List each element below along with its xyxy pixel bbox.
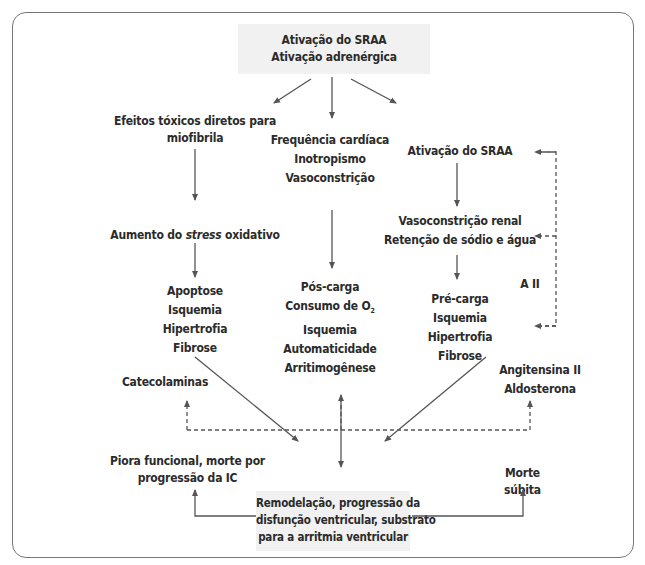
left-effects-node: Apoptose Isquemia Hipertrofia Fibrose: [135, 282, 255, 358]
heart-rate-node: Frequência cardíaca Inotropismo Vasocons…: [260, 131, 400, 188]
sraa-activation-node: Ativação do SRAA: [390, 143, 530, 160]
preload-node: Pré-carga Isquemia Hipertrofia Fibrose: [400, 290, 520, 366]
afterload-node: Pós-carga Consumo de O2 Isquemia Automat…: [260, 278, 400, 378]
catecolaminas-node: Catecolaminas: [110, 374, 220, 391]
oxidative-stress-node: Aumento do stress oxidativo: [90, 227, 300, 244]
sudden-death-node: Morte súbita: [495, 465, 550, 499]
top-box-text: Ativação do SRAA Ativação adrenérgica: [238, 32, 430, 66]
functional-worsening-node: Piora funcional, morte por progressão da…: [100, 453, 275, 487]
angiotensin-aldosterone-node: Angitensina II Aldosterona: [485, 361, 595, 399]
a2-label: A II: [515, 276, 545, 293]
remodeling-text: Remodelação, progressão da disfunção ven…: [256, 495, 410, 546]
renal-vasoconstriction-node: Vasoconstrição renal Retenção de sódio e…: [380, 212, 540, 250]
